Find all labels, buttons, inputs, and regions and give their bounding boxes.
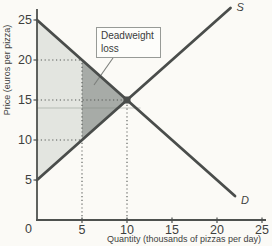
supply-curve-label: S	[237, 1, 245, 13]
x-axis-title: Quantity (thousands of pizzas per day)	[107, 234, 261, 244]
y-tick-label-10: 10	[18, 133, 32, 147]
deadweight-loss-callout: Deadweight loss	[96, 27, 161, 58]
origin-label: 0	[25, 222, 32, 236]
x-tick-label-5: 5	[79, 223, 86, 237]
deadweight-loss-region	[82, 60, 127, 140]
y-axis-title: Price (euros per pizza)	[2, 25, 12, 116]
deadweight-loss-label-line2: loss	[101, 43, 160, 56]
demand-curve-label: D	[241, 194, 249, 206]
equilibrium-point	[124, 97, 131, 104]
y-tick-label-20: 20	[18, 53, 32, 67]
y-tick-label-15: 15	[18, 93, 32, 107]
supply-demand-deadweight-loss-chart: SD5101520255101520250Quantity (thousands…	[0, 0, 272, 246]
deadweight-loss-label-line1: Deadweight	[101, 30, 160, 43]
y-tick-label-25: 25	[18, 13, 32, 27]
y-tick-label-5: 5	[25, 173, 32, 187]
